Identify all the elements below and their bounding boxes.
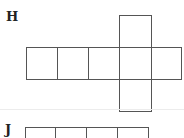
- net-square-top: [119, 15, 152, 48]
- net-square: [86, 127, 118, 138]
- net-square: [151, 47, 182, 80]
- net-square: [57, 47, 89, 80]
- net-square-bottom: [119, 79, 152, 112]
- net-square: [26, 47, 58, 80]
- option-h-label: H: [6, 10, 18, 23]
- net-square: [55, 127, 87, 138]
- net-square: [119, 47, 152, 80]
- separator: [0, 109, 184, 110]
- net-square: [25, 127, 56, 138]
- net-square: [117, 127, 149, 138]
- option-j-label: J: [5, 123, 11, 136]
- net-square: [88, 47, 120, 80]
